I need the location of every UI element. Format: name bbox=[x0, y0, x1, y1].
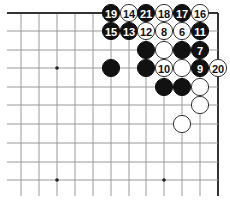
black-stone bbox=[155, 78, 172, 95]
black-stone bbox=[102, 59, 119, 76]
move-number: 6 bbox=[179, 26, 185, 38]
stone-circle bbox=[155, 41, 172, 58]
move-number: 12 bbox=[140, 26, 152, 38]
black-stone: 19 bbox=[102, 4, 119, 21]
stone-circle bbox=[102, 59, 119, 76]
move-number: 10 bbox=[158, 63, 170, 75]
stone-circle bbox=[173, 78, 190, 95]
black-stone bbox=[173, 41, 190, 58]
stone-circle bbox=[137, 41, 154, 58]
move-number: 16 bbox=[194, 8, 206, 20]
white-stone: 20 bbox=[209, 59, 226, 76]
black-stone: 13 bbox=[120, 22, 137, 39]
stone-circle bbox=[173, 59, 190, 76]
white-stone: 18 bbox=[155, 4, 172, 21]
star-point bbox=[162, 178, 166, 182]
move-number: 9 bbox=[197, 63, 203, 75]
move-number: 8 bbox=[161, 26, 167, 38]
stone-circle bbox=[191, 96, 208, 113]
white-stone bbox=[191, 78, 208, 95]
move-number: 20 bbox=[212, 63, 224, 75]
black-stone bbox=[137, 59, 154, 76]
move-number: 19 bbox=[105, 8, 117, 20]
stone-circle bbox=[191, 78, 208, 95]
black-stone: 9 bbox=[191, 59, 208, 76]
star-point bbox=[55, 66, 59, 70]
white-stone: 16 bbox=[191, 4, 208, 21]
board-grid bbox=[7, 13, 218, 196]
black-stone: 11 bbox=[191, 22, 208, 39]
white-stone: 8 bbox=[155, 22, 172, 39]
black-stone bbox=[173, 78, 190, 95]
move-number: 17 bbox=[176, 8, 188, 20]
black-stone: 21 bbox=[137, 4, 154, 21]
go-board: 1914211817161513128611710920 bbox=[0, 0, 230, 203]
move-number: 14 bbox=[123, 8, 136, 20]
move-number: 7 bbox=[197, 45, 203, 57]
white-stone bbox=[191, 96, 208, 113]
black-stone: 15 bbox=[102, 22, 119, 39]
white-stone: 6 bbox=[173, 22, 190, 39]
move-number: 11 bbox=[194, 26, 206, 38]
move-number: 21 bbox=[140, 8, 152, 20]
stone-circle bbox=[155, 78, 172, 95]
black-stone bbox=[137, 41, 154, 58]
white-stone bbox=[173, 115, 190, 132]
black-stone: 7 bbox=[191, 41, 208, 58]
move-number: 18 bbox=[158, 8, 170, 20]
star-point bbox=[55, 178, 59, 182]
stone-circle bbox=[173, 115, 190, 132]
move-number: 15 bbox=[105, 26, 117, 38]
stone-circle bbox=[173, 41, 190, 58]
white-stone bbox=[155, 41, 172, 58]
stone-circle bbox=[137, 59, 154, 76]
white-stone: 10 bbox=[155, 59, 172, 76]
move-number: 13 bbox=[123, 26, 135, 38]
white-stone: 12 bbox=[137, 22, 154, 39]
black-stone: 17 bbox=[173, 4, 190, 21]
white-stone: 14 bbox=[120, 4, 137, 21]
white-stone bbox=[173, 59, 190, 76]
